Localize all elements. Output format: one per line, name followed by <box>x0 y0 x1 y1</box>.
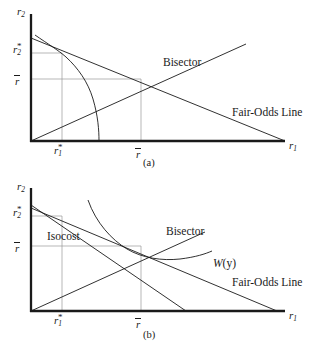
panel-b-plot <box>0 178 330 357</box>
panel-a-plot <box>0 0 330 178</box>
panel-b-tick-r1-star: r1* <box>54 315 67 328</box>
panel-b-bisector-label: Bisector <box>166 226 204 238</box>
panel-b-tick-rbar-x: r <box>136 315 140 331</box>
panel-b: r2 r2* r r1* r r1 Isocost Bisector W(y) … <box>0 178 330 357</box>
panel-a-y-axis-label: r2 <box>17 6 25 19</box>
panel-a: r2 r2* r r1* r r1 Bisector Fair-Odds Lin… <box>0 0 330 178</box>
panel-a-tick-r1-star: r1* <box>54 145 67 158</box>
fair-odds-line <box>31 208 277 311</box>
panel-b-x-axis-label: r1 <box>289 310 297 323</box>
panel-a-tick-rbar-x: r <box>136 145 140 161</box>
panel-a-x-axis-label: r1 <box>289 140 297 153</box>
panel-a-guides <box>31 53 141 141</box>
fair-odds-line <box>31 38 285 141</box>
panel-b-fair-odds-label: Fair-Odds Line <box>232 277 302 289</box>
panel-b-w-of-y-label: W(y) <box>213 258 236 270</box>
figure-container: r2 r2* r r1* r r1 Bisector Fair-Odds Lin… <box>0 0 330 357</box>
panel-b-caption: (b) <box>143 330 155 341</box>
panel-b-isocost-label: Isocost <box>47 231 80 243</box>
panel-a-caption: (a) <box>143 158 155 169</box>
panel-a-tick-rbar-y: r <box>15 72 19 88</box>
panel-a-fair-odds-label: Fair-Odds Line <box>232 107 302 119</box>
bisector-line <box>31 44 246 141</box>
panel-b-tick-r2-star: r2* <box>13 207 26 220</box>
panel-a-tick-r2-star: r2* <box>13 44 26 57</box>
bisector-line <box>31 232 205 311</box>
panel-b-tick-rbar-y: r <box>15 239 19 255</box>
panel-b-y-axis-label: r2 <box>17 181 25 194</box>
panel-a-bisector-label: Bisector <box>163 57 201 69</box>
isocost-line <box>31 205 186 311</box>
